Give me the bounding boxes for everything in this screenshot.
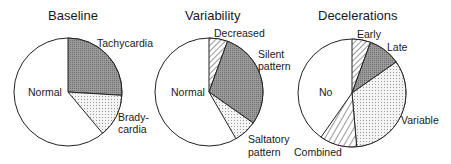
label-variable: Variable — [401, 114, 439, 126]
label-bradycardia-line1: Brady- — [118, 111, 149, 123]
label-tachycardia: Tachycardia — [97, 37, 153, 49]
label-bradycardia-line2: cardia — [118, 123, 147, 135]
label-early: Early — [357, 28, 381, 40]
label-late: Late — [387, 41, 407, 53]
label-decreased: Decreased — [214, 27, 265, 39]
label-normal-variability: Normal — [171, 86, 205, 98]
pie-charts-canvas — [0, 0, 451, 164]
label-silent-line2: pattern — [258, 60, 291, 72]
label-silent-line1: Silent — [258, 48, 284, 60]
baseline-title: Baseline — [48, 8, 98, 23]
variability-title: Variability — [185, 8, 240, 23]
label-saltatory-line2: pattern — [248, 146, 281, 158]
label-saltatory-line1: Saltatory — [248, 133, 289, 145]
label-no: No — [319, 86, 332, 98]
decelerations-title: Decelerations — [318, 8, 398, 23]
label-combined: Combined — [294, 146, 342, 158]
label-normal-baseline: Normal — [28, 86, 62, 98]
decelerations-pie — [298, 39, 406, 147]
